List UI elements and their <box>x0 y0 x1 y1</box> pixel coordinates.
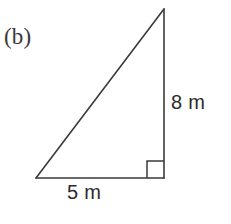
base-dimension-label: 5 m <box>67 182 101 202</box>
right-angle-marker-icon <box>147 161 164 178</box>
part-label: (b) <box>4 25 31 48</box>
height-dimension-label: 8 m <box>171 92 205 112</box>
triangle-hypotenuse-line <box>36 9 164 178</box>
figure-container: (b) 8 m 5 m <box>0 0 231 224</box>
